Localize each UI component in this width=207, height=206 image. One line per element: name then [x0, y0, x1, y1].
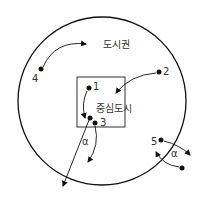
point-4-label: 4	[32, 73, 38, 84]
arrow-1	[83, 91, 87, 118]
region-label: 도시권	[103, 39, 130, 50]
point-3-label: 3	[100, 117, 106, 128]
point-2-dot	[157, 70, 162, 75]
alpha-label-5: α	[171, 148, 178, 159]
urban-region-boundary	[18, 17, 186, 185]
point-5-outside-dot	[180, 166, 185, 171]
point-1-dot	[87, 86, 92, 91]
alpha-label-3: α	[82, 136, 89, 147]
arrow-4	[43, 43, 86, 67]
point-3-dot-b	[93, 121, 98, 126]
central-city-label: 중심도시	[96, 103, 132, 114]
point-3-dot-a	[88, 116, 93, 121]
point-5-dot	[159, 138, 164, 143]
urban-region-diagram: 도시권 중심도시 4 2 1 3 α 5 α	[0, 0, 207, 206]
point-2-label: 2	[163, 66, 169, 77]
arrow-3-outward	[63, 120, 89, 186]
point-1-label: 1	[93, 81, 99, 92]
point-5-label: 5	[151, 136, 157, 147]
arrow-3-alpha	[88, 126, 96, 162]
arrow-2	[116, 73, 156, 93]
point-4-dot	[39, 67, 44, 72]
